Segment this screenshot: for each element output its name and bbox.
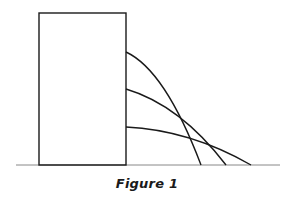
water-tank xyxy=(39,13,126,165)
bottom-jet-trajectory xyxy=(126,127,251,165)
tank-jets-diagram xyxy=(0,0,294,203)
figure-caption: Figure 1 xyxy=(0,176,294,191)
middle-jet-trajectory xyxy=(126,89,226,165)
top-jet-trajectory xyxy=(126,52,201,165)
